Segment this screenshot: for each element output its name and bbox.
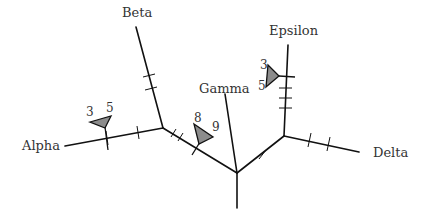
taxon-label-beta: Beta [122, 6, 152, 19]
branch-alpha [65, 128, 163, 146]
branch-internal-right [237, 136, 284, 173]
marker-alpha-left-value: 3 [86, 106, 94, 118]
state-change-marker-alpha [90, 116, 111, 150]
taxon-label-alpha: Alpha [22, 139, 60, 152]
branch-epsilon [284, 45, 288, 136]
marker-internal-left-value: 8 [194, 112, 202, 124]
marker-internal-right-value: 9 [212, 121, 220, 133]
marker-epsilon-bottom-value: 5 [258, 80, 266, 92]
marker-alpha-right-value: 5 [106, 102, 114, 114]
phylogenetic-tree: Alpha Beta Gamma Delta Epsilon 3 5 8 9 3… [0, 0, 426, 218]
branch-delta [284, 136, 359, 152]
state-change-marker-epsilon [266, 65, 295, 87]
tree-drawing [0, 0, 426, 218]
taxon-label-epsilon: Epsilon [269, 24, 318, 37]
taxon-label-gamma: Gamma [199, 82, 250, 95]
state-change-marker-internal [192, 124, 213, 155]
branch-beta [136, 27, 163, 128]
taxon-label-delta: Delta [373, 146, 408, 159]
branch-gamma [225, 94, 237, 173]
marker-epsilon-top-value: 3 [260, 59, 268, 71]
